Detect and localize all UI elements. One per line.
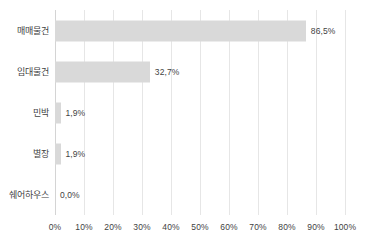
x-axis: 0%10%20%30%40%50%60%70%80%90%100% <box>55 222 345 236</box>
x-tick-label: 90% <box>307 222 324 232</box>
bar-row: 1,9% <box>55 133 345 174</box>
x-tick-label: 80% <box>278 222 295 232</box>
bar-value-label: 32,7% <box>155 67 180 77</box>
gridline-100 <box>345 10 346 215</box>
bar <box>55 143 61 164</box>
bar-value-label: 1,9% <box>66 108 86 118</box>
category-label: 임대물건 <box>17 51 49 92</box>
category-axis: 매매물건임대물건민박별장쉐어하우스 <box>0 10 49 215</box>
category-label: 쉐어하우스 <box>9 174 49 215</box>
bar-row: 1,9% <box>55 92 345 133</box>
x-tick-label: 30% <box>133 222 150 232</box>
bar-rows: 86,5%32,7%1,9%1,9%0,0% <box>55 10 345 215</box>
x-tick-label: 100% <box>334 222 356 232</box>
bar <box>55 20 306 41</box>
bar-row: 0,0% <box>55 174 345 215</box>
bar <box>55 61 150 82</box>
x-tick-label: 10% <box>75 222 92 232</box>
category-label: 매매물건 <box>17 10 49 51</box>
x-tick-label: 0% <box>49 222 62 232</box>
bar-value-label: 1,9% <box>66 149 86 159</box>
plot-area: 86,5%32,7%1,9%1,9%0,0% <box>55 10 345 215</box>
horizontal-bar-chart: 매매물건임대물건민박별장쉐어하우스 86,5%32,7%1,9%1,9%0,0%… <box>0 0 371 247</box>
x-tick-label: 50% <box>191 222 208 232</box>
x-tick-label: 70% <box>249 222 266 232</box>
x-tick-label: 60% <box>220 222 237 232</box>
bar-row: 32,7% <box>55 51 345 92</box>
bar-row: 86,5% <box>55 10 345 51</box>
bar <box>55 102 61 123</box>
x-tick-label: 40% <box>162 222 179 232</box>
x-tick-label: 20% <box>104 222 121 232</box>
category-label: 민박 <box>33 92 49 133</box>
bar-value-label: 0,0% <box>60 190 80 200</box>
bar-value-label: 86,5% <box>311 26 336 36</box>
category-label: 별장 <box>33 133 49 174</box>
